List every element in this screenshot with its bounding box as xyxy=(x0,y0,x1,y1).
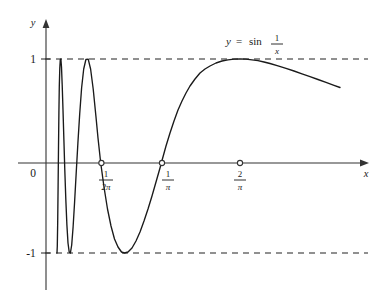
chart-figure: y x 1 0 -1 1 2π 1 π 2 π y = sin xyxy=(0,0,387,300)
y-axis-arrowhead xyxy=(43,19,50,28)
y-tick-label-minus-1: -1 xyxy=(26,247,36,259)
x-tick-1-over-pi-denominator: π xyxy=(166,182,171,192)
x-tick-label-1-over-2pi: 1 2π xyxy=(99,169,113,192)
equation-fraction-numerator: 1 xyxy=(275,33,280,43)
equation-lhs: y xyxy=(225,35,231,47)
x-axis-arrowhead xyxy=(360,160,369,167)
y-tick-label-1: 1 xyxy=(30,53,36,65)
y-axis-label: y xyxy=(30,17,36,28)
y-tick-label-0: 0 xyxy=(30,167,36,179)
x-tick-1-over-2pi-denominator: 2π xyxy=(101,182,111,192)
x-tick-2-over-pi-denominator: π xyxy=(238,182,243,192)
x-tick-label-2-over-pi: 2 π xyxy=(234,169,246,192)
marker-zero-at-1-over-2pi xyxy=(99,160,104,165)
equation-annotation: y = sin 1 x xyxy=(225,33,283,56)
curve-sin-one-over-x xyxy=(57,59,340,253)
equation-equals: = xyxy=(236,35,242,47)
x-axis-label: x xyxy=(363,168,369,179)
x-tick-1-over-pi-numerator: 1 xyxy=(166,169,171,179)
marker-max-at-2-over-pi xyxy=(237,160,242,165)
sin-one-over-x-plot: y x 1 0 -1 1 2π 1 π 2 π y = sin xyxy=(0,0,387,300)
x-tick-2-over-pi-numerator: 2 xyxy=(238,169,243,179)
equation-function: sin xyxy=(249,35,262,47)
equation-fraction-denominator: x xyxy=(274,46,279,56)
marker-zero-at-1-over-pi xyxy=(159,160,164,165)
x-tick-1-over-2pi-numerator: 1 xyxy=(104,169,109,179)
x-tick-label-1-over-pi: 1 π xyxy=(162,169,174,192)
